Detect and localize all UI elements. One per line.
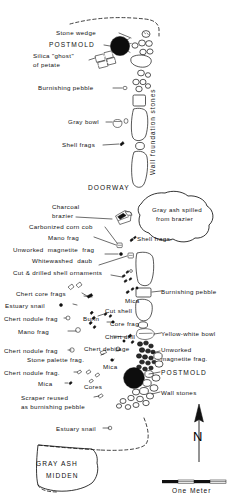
label-cut-shell: Cut shell [105,307,132,314]
shell-frags-right-artifact [130,236,136,242]
mano-frag-upper-artifact [117,243,122,248]
gray-ash-midden-feature [37,445,98,492]
label-chert-nodule-frag-2: Chert nodule frag [4,347,58,354]
label-yellow-white-bowl: Yellow-white bowl [161,330,216,337]
label-chert-nodule-frag-1: Chert nodule frag [4,315,58,322]
gray-bowl-artifact [113,119,128,128]
postmold-top-feature [110,36,131,55]
label-chert-nodule-frag-3: Chert nodule frag. [4,369,60,376]
label-stone-wedge: Stone wedge [56,29,96,36]
label-chert-debitage: Chert debitage [84,345,130,352]
whitewashed-daub-artifact [128,253,133,258]
label-silica-ghost-line1: Silica "ghost" [33,52,74,59]
label-unworked-magnetite-frag-lower-line1: Unworked [161,346,192,353]
label-silica-ghost-line2: of petate [33,61,60,68]
label-wall-foundation-stones: Wall foundation stones [149,89,156,175]
label-cores: Cores [84,383,102,390]
label-chert-core-frags: Chert core frags [16,290,66,297]
label-unworked-magnetite-frag-upper: Unworked magnetite frag [13,246,95,253]
silica-ghost-of-petate-feature [95,51,116,69]
label-burnishing-pebble-top: Burnishing pebble [38,84,94,91]
label-scraper-reused-line2: as burnishing pebble [21,403,85,410]
label-postmold-lower: POSTMOLD [161,369,207,376]
label-mica-upper: Mica [125,297,140,304]
label-gray-bowl: Gray bowl [68,118,99,125]
label-charcoal-brazier-line2: brazier [52,212,73,219]
scale-bar [162,480,226,483]
archaeological-plan-map: Stone wedge POSTMOLD Silica "ghost" of p… [0,0,236,502]
label-gray-ash-midden-line1: GRAY ASH [36,460,78,467]
label-shell-frags-left: Shell frags [62,141,95,148]
wall-foundation-stone-chain-middle [136,252,154,328]
burnishing-pebble-top-artifact [123,86,127,89]
label-charcoal-brazier-line1: Charcoal [52,203,80,210]
label-whitewashed-daub: Whitewashed daub [32,257,93,264]
label-burin: Burin [83,315,99,322]
label-scale-caption: One Meter [172,487,211,494]
label-scraper-reused-line1: Scraper reused [21,394,68,401]
label-cut-drilled-shell-ornaments: Cut & drilled shell ornaments [13,269,102,276]
label-estuary-snail-mid: Estuary snail [5,302,45,309]
excavation-edge-lower [38,418,148,450]
yellow-white-bowl-artifact [136,329,154,340]
label-shell-frags-right: Shell frags. [137,235,172,242]
postmold-lower-feature [124,368,145,389]
label-doorway: DOORWAY [88,184,130,191]
label-mano-frag-upper: Mano frag [48,234,79,241]
plan-drawing: Stone wedge POSTMOLD Silica "ghost" of p… [0,0,236,502]
charcoal-brazier-feature [115,210,133,225]
unworked-magnetite-frag-upper-artifact [120,253,123,256]
label-core-frag: Core frag [110,320,139,327]
cobble-debitage-chain [136,341,163,371]
label-mica-lower: Mica [38,380,53,387]
label-postmold-top: POSTMOLD [49,41,95,48]
label-chert-drill: Chert drill [105,333,135,340]
label-mano-frag-lower: Mano frag [18,328,49,335]
label-wall-stones: Wall stones [161,389,197,396]
label-stone-palette-frag: Stone palette frag. [27,356,84,363]
label-estuary-snail-lower: Estuary snail [56,425,96,432]
label-north: N [193,429,202,444]
label-mica-mid: Mica [103,363,118,370]
label-burnishing-pebble-mid: Burnishing pebble [161,288,217,295]
shell-frags-left-artifact [120,142,124,146]
label-unworked-magnetite-frag-lower-line2: magnetite frag. [161,355,208,362]
label-carbonized-corn-cob: Carbonized corn cob [29,223,93,230]
label-gray-ash-midden-line2: MIDDEN [46,472,79,479]
label-gray-ash-spill-line1: Gray ash spilled [152,206,202,213]
label-gray-ash-spill-line2: from brazier [156,215,193,222]
